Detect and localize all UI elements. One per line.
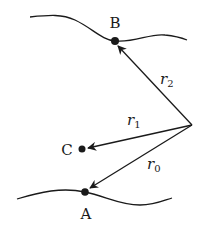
vector-r0 — [90, 125, 192, 188]
label-r1: r1 — [127, 111, 141, 130]
label-r0: r0 — [147, 155, 161, 174]
point-a — [81, 188, 89, 196]
label-c: C — [61, 141, 72, 159]
label-b: B — [109, 14, 120, 32]
diagram-canvas: B C A r2 r1 r0 — [0, 0, 208, 231]
label-a: A — [80, 205, 92, 223]
lower-curve — [17, 190, 172, 205]
point-c — [79, 146, 86, 153]
label-r2: r2 — [160, 70, 174, 89]
point-b — [111, 37, 119, 45]
